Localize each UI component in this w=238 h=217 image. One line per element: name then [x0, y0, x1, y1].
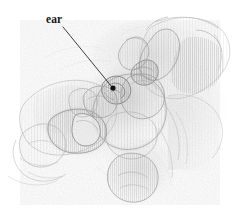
figure-container: ear [0, 0, 238, 217]
graphite-grain [20, 20, 220, 205]
anatomical-illustration [0, 0, 238, 217]
